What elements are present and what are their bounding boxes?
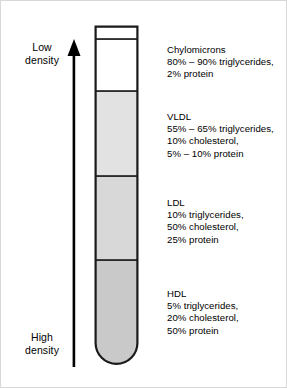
tube-divider-vldl-ldl <box>94 175 139 177</box>
low-density-line2: density <box>25 54 59 66</box>
annotation-hdl-name: HDL <box>167 288 287 300</box>
figure-canvas: Low density High density <box>0 0 287 388</box>
tube-band-vldl <box>94 91 139 176</box>
annotation-ldl-line-3: 25% protein <box>167 234 287 246</box>
annotation-hdl-line-3: 50% protein <box>167 325 287 337</box>
annotation-hdl-line-2: 20% cholesterol, <box>167 312 287 324</box>
annotation-chylomicrons-line-1: 80% – 90% triglycerides, <box>167 56 287 68</box>
arrow-up-icon <box>63 39 87 367</box>
tube-divider-headspace <box>94 38 139 40</box>
test-tube-graphic <box>94 25 139 367</box>
density-axis-arrow <box>63 39 87 367</box>
annotation-chylomicrons: Chylomicrons 80% – 90% triglycerides, 2%… <box>167 44 287 81</box>
low-density-line1: Low <box>32 41 52 53</box>
annotation-vldl-line-2: 10% cholesterol, <box>167 135 287 147</box>
annotation-ldl: LDL 10% triglycerides, 50% cholesterol, … <box>167 197 287 246</box>
annotation-vldl: VLDL 55% – 65% triglycerides, 10% choles… <box>167 111 287 160</box>
low-density-label: Low density <box>13 41 71 66</box>
centrifuge-tube <box>94 25 139 367</box>
tube-divider-ldl-hdl <box>94 259 139 261</box>
high-density-line1: High <box>31 331 53 343</box>
annotation-ldl-line-1: 10% triglycerides, <box>167 209 287 221</box>
annotation-vldl-line-3: 5% – 10% protein <box>167 148 287 160</box>
annotation-hdl: HDL 5% triglycerides, 20% cholesterol, 5… <box>167 288 287 337</box>
annotation-chylomicrons-line-2: 2% protein <box>167 68 287 80</box>
tube-divider-chylomicrons-vldl <box>94 90 139 92</box>
tube-band-chylomicrons <box>94 39 139 91</box>
tube-band-ldl <box>94 176 139 260</box>
annotation-hdl-line-1: 5% triglycerides, <box>167 300 287 312</box>
annotation-chylomicrons-name: Chylomicrons <box>167 44 287 56</box>
annotation-vldl-line-1: 55% – 65% triglycerides, <box>167 123 287 135</box>
annotation-ldl-line-2: 50% cholesterol, <box>167 221 287 233</box>
annotation-ldl-name: LDL <box>167 197 287 209</box>
tube-band-hdl <box>94 260 139 367</box>
high-density-line2: density <box>25 344 59 356</box>
high-density-label: High density <box>13 331 71 356</box>
annotation-vldl-name: VLDL <box>167 111 287 123</box>
